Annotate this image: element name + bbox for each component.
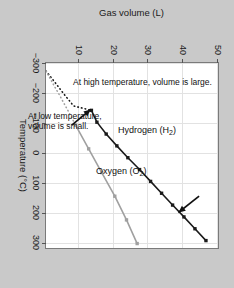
x-tick-label: 200 <box>31 205 41 220</box>
y-tick-label: 50 <box>213 45 223 55</box>
rotated-figure-wrapper: Gas volume (L) Temperature (°C) −300−200… <box>0 0 234 288</box>
x-tick-label: −300 <box>31 53 41 73</box>
data-point-marker <box>171 203 174 206</box>
series-layer <box>46 63 218 248</box>
data-point-marker <box>126 156 129 159</box>
data-point-marker <box>87 147 90 150</box>
data-point-marker <box>125 218 128 221</box>
y-axis-title: Gas volume (L) <box>45 6 219 18</box>
annotation-high-temperature: At high temperature, volume is large. <box>73 77 212 87</box>
data-point-marker <box>182 215 185 218</box>
x-tick-label: 300 <box>31 235 41 250</box>
y-tick-label: 20 <box>109 45 119 55</box>
data-point-marker <box>149 180 152 183</box>
y-tick-label: 30 <box>143 45 153 55</box>
annotation-low-temperature-line1: At low temperature, <box>28 111 102 121</box>
data-point-marker <box>135 242 138 245</box>
y-tick-label: 40 <box>178 45 188 55</box>
data-point-marker <box>193 227 196 230</box>
series-label-oxygen: Oxygen (O2) <box>96 166 146 177</box>
data-point-marker <box>115 144 118 147</box>
annotation-high-temperature-text: At high temperature, volume is large. <box>73 77 212 87</box>
data-point-marker <box>204 239 207 242</box>
x-axis-title: Temperature (°C) <box>18 62 29 249</box>
chart-figure: Gas volume (L) Temperature (°C) −300−200… <box>0 0 234 288</box>
x-tick-label: 0 <box>31 150 41 155</box>
data-point-marker <box>113 195 116 198</box>
x-tick-label: 100 <box>31 175 41 190</box>
y-axis-title-text: Gas volume (L) <box>100 7 165 18</box>
annotation-low-temperature: At low temperature,volume is small. <box>28 111 102 131</box>
y-tick-label: 10 <box>74 45 84 55</box>
data-point-marker <box>105 132 108 135</box>
series-line-oxygen <box>76 125 138 243</box>
x-tick-label: −200 <box>31 83 41 103</box>
series-label-hydrogen: Hydrogen (H2) <box>118 125 176 136</box>
plot-area: −300−200−10001002003001020304050 Hydroge… <box>45 62 219 249</box>
annotation-low-temperature-line2: volume is small. <box>28 121 102 131</box>
data-point-marker <box>160 192 163 195</box>
